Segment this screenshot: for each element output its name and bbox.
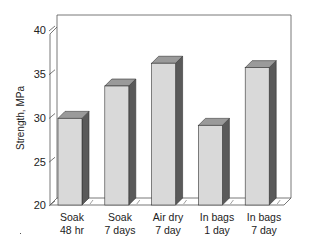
y-tick-30: 30 <box>24 112 46 124</box>
x-category-label: In bags 1 day <box>192 211 242 237</box>
bar-side <box>82 111 89 205</box>
x-category-label: In bags 7 day <box>239 211 289 237</box>
bar-chart: Strength, MPa 40 35 30 25 20 Soak 48 hr … <box>0 0 309 246</box>
bar-side <box>269 61 276 205</box>
y-tick-20: 20 <box>24 199 46 211</box>
bar-front <box>245 68 269 205</box>
bar-front <box>58 118 82 205</box>
y-tick-35: 35 <box>24 68 46 80</box>
x-category-label: Soak 48 hr <box>47 211 97 237</box>
y-tick-25: 25 <box>24 156 46 168</box>
bar-front <box>198 125 222 205</box>
y-axis-top-edge <box>50 27 57 34</box>
bar-front <box>152 63 176 205</box>
x-category-label: Air dry 7 day <box>143 211 193 237</box>
bar-side <box>176 56 183 205</box>
plot-area <box>0 0 309 246</box>
x-category-label: Soak 7 days <box>95 211 145 237</box>
bar-side <box>222 118 229 205</box>
y-tick-40: 40 <box>24 24 46 36</box>
bar-front <box>105 86 129 205</box>
stray-mark <box>20 233 21 234</box>
bar-side <box>129 79 136 205</box>
